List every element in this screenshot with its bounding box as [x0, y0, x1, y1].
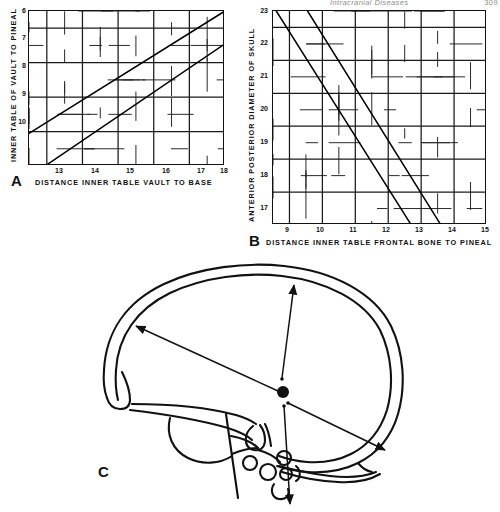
x-tick-b-4: 13	[412, 226, 426, 233]
skull-inner-table	[116, 275, 391, 463]
limit-lines	[29, 11, 224, 165]
orbital-roof-line	[132, 404, 256, 424]
x-axis-title-b: DISTANCE INNER TABLE FRONTAL BONE TO PIN…	[266, 238, 492, 247]
arrow-tail-dot-occip	[286, 401, 290, 405]
panel-letter-a: A	[11, 172, 22, 189]
x-tick-b-3: 12	[379, 226, 393, 233]
x-tick-a-3: 16	[159, 167, 173, 174]
x-tick-a-1: 14	[88, 167, 102, 174]
x-tick-b-2: 11	[346, 226, 360, 233]
x-tick-b-0: 9	[280, 226, 294, 233]
skull-diagram-panel: PINEAL C	[60, 258, 500, 512]
upper-limit-line	[45, 44, 224, 165]
running-head: Intracranial Diseases 309	[330, 0, 500, 9]
figure-root: Intracranial Diseases 309 6 7 8 9 10 13 …	[0, 0, 500, 512]
maxilla-outline	[231, 436, 258, 448]
plot-grid-a	[29, 11, 224, 165]
arrow-pineal-to-vertex	[282, 285, 294, 378]
temporal-fossa	[169, 418, 232, 463]
sinus-cell-5	[272, 484, 289, 499]
x-axis-title-a: DISTANCE INNER TABLE VAULT TO BASE	[35, 178, 212, 187]
lower-limit-line	[29, 11, 224, 133]
plot-area-a	[28, 10, 224, 165]
x-tick-a-2: 15	[123, 167, 137, 174]
sinus-cell-6	[296, 466, 300, 481]
major-grid	[29, 11, 224, 165]
orbit-roof-left	[116, 370, 118, 400]
arrow-tail-dot-vertex	[280, 377, 284, 381]
x-tick-b-5: 14	[445, 226, 459, 233]
plot-area-b	[272, 10, 486, 224]
orbit-block	[107, 372, 130, 409]
skull-outer-table	[104, 265, 403, 473]
x-tick-a-4: 17	[194, 167, 208, 174]
sinus-cell-2	[260, 464, 276, 480]
panel-letter-b: B	[249, 232, 260, 249]
facial-descending-line	[226, 414, 238, 498]
minor-grid	[29, 11, 224, 165]
arrow-tail-dot-base	[282, 404, 286, 408]
panel-letter-c: C	[98, 463, 109, 480]
x-tick-a-0: 13	[52, 167, 66, 174]
arrow-pineal-to-frontal-vault	[136, 326, 278, 391]
frontal-inner-lower	[104, 370, 107, 398]
y-tick-b-6: 23	[250, 7, 268, 14]
sinus-cell-1	[243, 456, 257, 470]
pineal-marker-dot	[277, 386, 289, 398]
plot-grid-b	[273, 11, 486, 224]
running-head-title: Intracranial Diseases	[330, 0, 408, 7]
major-grid	[273, 11, 486, 224]
x-tick-b-1: 10	[313, 226, 327, 233]
x-tick-a-5: 18	[217, 167, 231, 174]
clinoid-process	[265, 424, 271, 446]
running-head-page: 309	[484, 0, 498, 7]
arrow-pineal-to-occipital	[288, 403, 385, 450]
y-axis-title-a: INNER TABLE OF VAULT TO PINEAL	[9, 8, 18, 162]
y-axis-title-b: ANTERIOR POSTERIOR DIAMETER OF SKULL	[247, 28, 256, 222]
x-tick-b-6: 15	[478, 226, 492, 233]
skull-diagram-svg	[60, 258, 500, 512]
occipital-notch	[358, 463, 372, 472]
